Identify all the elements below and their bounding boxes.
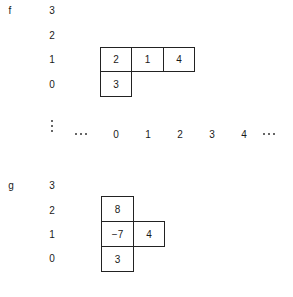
g-cell-r0-c0: 3 bbox=[101, 246, 134, 272]
f-row-label-3: 3 bbox=[49, 6, 55, 16]
g-row-label-2: 2 bbox=[49, 206, 55, 216]
f-cell-r0-c0: 3 bbox=[100, 71, 132, 97]
vertical-ellipsis bbox=[51, 120, 53, 135]
g-row-label-0: 0 bbox=[49, 254, 55, 264]
g-cell-r2-c0: 8 bbox=[101, 196, 134, 222]
leading-ellipsis bbox=[75, 133, 87, 135]
trailing-ellipsis bbox=[263, 133, 275, 135]
g-row-label-3: 3 bbox=[49, 181, 55, 191]
g-cell-r1-c0: −7 bbox=[101, 221, 134, 247]
f-cell-r1-c2: 4 bbox=[163, 47, 195, 72]
col-label-0: 0 bbox=[113, 130, 119, 140]
f-row-label-0: 0 bbox=[49, 80, 55, 90]
function-label-f: f bbox=[9, 6, 12, 16]
g-row-label-1: 1 bbox=[49, 230, 55, 240]
g-cell-r1-c1: 4 bbox=[133, 221, 165, 247]
f-row-label-1: 1 bbox=[49, 55, 55, 65]
f-cell-r1-c1: 1 bbox=[131, 47, 164, 72]
function-label-g: g bbox=[8, 181, 14, 191]
col-label-3: 3 bbox=[209, 130, 215, 140]
col-label-1: 1 bbox=[145, 130, 151, 140]
f-row-label-2: 2 bbox=[49, 31, 55, 41]
col-label-2: 2 bbox=[177, 130, 183, 140]
f-cell-r1-c0: 2 bbox=[100, 47, 132, 72]
col-label-4: 4 bbox=[241, 130, 247, 140]
